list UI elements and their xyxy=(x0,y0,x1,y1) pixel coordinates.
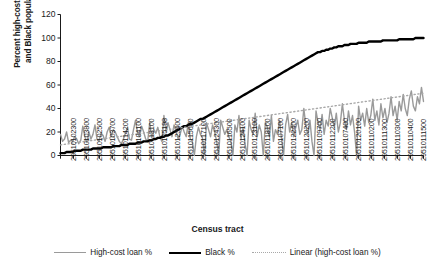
x-axis-tick-label: 29510120100 xyxy=(355,118,363,161)
legend-item-black-pct: Black % xyxy=(169,248,235,257)
legend-label-high-cost-loan: High-cost loan % xyxy=(90,248,152,257)
x-axis-tick-label: 29510103700 xyxy=(109,118,117,161)
x-axis-tick-label: 29510114200 xyxy=(122,119,130,161)
x-axis-tick-label: 29510107100 xyxy=(277,118,285,161)
gray-line-swatch-icon xyxy=(54,252,86,253)
legend-item-linear-trend: Linear (high-cost loan %) xyxy=(252,248,381,257)
x-axis-tick-label: 29510113100 xyxy=(148,119,156,161)
x-axis-tick-label: 29510110400 xyxy=(407,119,415,161)
chart-legend: High-cost loan % Black % Linear (high-co… xyxy=(0,248,435,257)
legend-label-linear-trend: Linear (high-cost loan %) xyxy=(290,248,381,257)
x-axis-tick-label: 29510116500 xyxy=(226,119,234,161)
legend-label-black-pct: Black % xyxy=(205,248,235,257)
legend-item-high-cost-loan: High-cost loan % xyxy=(54,248,152,257)
x-axis-tick-label: 29510110300 xyxy=(394,119,402,161)
x-axis-tick-label: 29510107400 xyxy=(342,118,350,161)
x-axis-tick-label: 29510102300 xyxy=(70,118,78,161)
x-axis-tick-label: 29510109700 xyxy=(316,118,324,161)
x-axis-tick-label: 29510115600 xyxy=(187,119,195,161)
x-axis-title: Census tract xyxy=(0,224,435,234)
x-axis-tick-label: 29510111300 xyxy=(381,119,389,161)
x-axis-tick-label: 29510123100 xyxy=(251,118,259,161)
dotted-line-swatch-icon xyxy=(252,252,286,253)
x-axis-tick-label: 29510104100 xyxy=(135,118,143,161)
x-axis-tick-label: 29510105198 xyxy=(161,118,169,161)
x-axis-tick-label: 29510111500 xyxy=(420,119,428,161)
x-axis-tick-label: 29510118100 xyxy=(264,119,272,161)
x-axis-tick-label: 29510103800 xyxy=(83,118,91,161)
chart-figure: Percent high-cost loans and Black popula… xyxy=(0,0,435,272)
x-axis-tick-label: 29510123400 xyxy=(174,118,182,161)
x-axis-tick-label: 29510124300 xyxy=(213,118,221,161)
x-axis-tick-label: 29510124100 xyxy=(239,118,247,161)
x-axis-tick-label: 29510122400 xyxy=(290,118,298,161)
x-axis-tick-label: 29510112200 xyxy=(329,119,337,161)
x-axis-tick-label: 29510102500 xyxy=(96,118,104,161)
x-axis-tick-label: 29510117100 xyxy=(200,119,208,161)
x-axis-tick-label: 29510120200 xyxy=(303,118,311,161)
x-axis-tick-label: 29510110200 xyxy=(368,119,376,161)
black-line-swatch-icon xyxy=(169,252,201,254)
